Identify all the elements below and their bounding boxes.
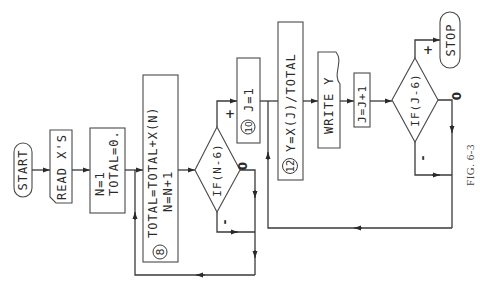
stop-terminal: STOP (440, 12, 460, 68)
incr-j-process-box: J=J+1 (354, 73, 370, 127)
accumulate-process-box: 8 TOTAL=TOTAL+X(N) N=N+1 (143, 75, 178, 262)
start-terminal: START (14, 143, 32, 197)
if-n-label: IF(N-6) (211, 143, 224, 196)
if-j-minus-label: - (416, 155, 430, 160)
flowchart: START READ X'S N=1 TOTAL=0. 8 TOTAL=TOTA… (0, 0, 490, 296)
decision-if-j: IF(J-6) (392, 58, 438, 142)
compute-y-label: Y=X(J)/TOTAL (284, 53, 298, 152)
write-label: WRITE Y (322, 76, 336, 134)
if-j-label: IF(J-6) (409, 73, 422, 126)
figure-caption: FIG. 6-3 (464, 144, 476, 186)
step-12: 12 (285, 160, 296, 173)
start-label: START (16, 149, 30, 190)
write-output-document: WRITE Y (318, 52, 340, 148)
read-input-card: READ X'S (50, 130, 72, 203)
branch-if-n-zero (240, 170, 255, 275)
read-label: READ X'S (55, 134, 69, 200)
decision-if-n: IF(N-6) (195, 127, 240, 212)
branch-if-j-zero (438, 100, 452, 228)
if-j-plus-label: + (423, 43, 433, 57)
stop-label: STOP (444, 24, 458, 57)
step-10: 10 (244, 121, 254, 133)
init-process-box: N=1 TOTAL=0. (90, 128, 125, 213)
set-j-process-box: 10 J=1 (237, 58, 260, 143)
init-line1: N=1 (93, 171, 107, 196)
set-j-label: J=1 (242, 87, 256, 112)
if-n-minus-label: - (218, 219, 232, 224)
if-j-zero-label: 0 (450, 92, 464, 100)
init-line2: TOTAL=0. (107, 130, 121, 196)
compute-y-process-box: 12 Y=X(J)/TOTAL (278, 22, 303, 180)
step-8: 8 (154, 249, 167, 256)
accumulate-line2: N=N+1 (161, 171, 175, 212)
if-n-zero-label: 0 (236, 162, 250, 170)
accumulate-line1: TOTAL=TOTAL+X(N) (146, 106, 160, 238)
if-n-plus-label: + (225, 107, 235, 121)
incr-j-label: J=J+1 (356, 85, 369, 123)
